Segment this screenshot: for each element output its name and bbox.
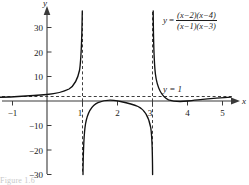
asymptote-label-y1: y = 1 <box>163 84 182 94</box>
x-axis-arrow <box>231 98 240 105</box>
x-tick-label: 2 <box>115 108 120 118</box>
y-tick-label: 20 <box>34 48 44 58</box>
x-tick-label: 1 <box>78 108 83 118</box>
equation-lhs: y <box>163 16 167 25</box>
figure-container: y x −1 1 2 3 4 5 30 20 10 −10 −20 −30 <box>0 0 249 185</box>
y-tick-label: −20 <box>29 146 44 156</box>
x-tick-label: 5 <box>220 108 225 118</box>
equation-denominator: (x−1)(x−3) <box>176 20 217 30</box>
x-tick-label: 3 <box>148 108 153 118</box>
equation-label: y = (x−2)(x−4) (x−1)(x−3) <box>163 11 217 30</box>
y-tick-label: 10 <box>34 72 44 82</box>
equation-numerator: (x−2)(x−4) <box>176 11 217 20</box>
equation-fraction: (x−2)(x−4) (x−1)(x−3) <box>176 11 217 30</box>
y-axis-label: y <box>42 0 47 8</box>
x-axis-label: x <box>241 96 246 106</box>
figure-caption: Figure 1.6 <box>0 176 249 185</box>
x-tick-label: −1 <box>8 108 18 118</box>
y-tick-label: −10 <box>29 121 44 131</box>
equation-equals: = <box>169 16 174 25</box>
x-tick-label: 4 <box>185 108 190 118</box>
y-tick-label: 30 <box>34 23 44 33</box>
